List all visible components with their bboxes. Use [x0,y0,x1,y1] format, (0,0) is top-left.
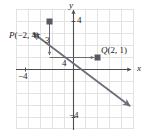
rise-label: 3 [45,36,50,45]
coordinate-plane-figure: P(−2, 4) Q(2, 1) 3 4 4 −4 −4 y x [0,0,154,137]
y-tick-label-neg4: −4 [69,111,79,120]
run-label: 4 [62,59,67,68]
point-marker-q [95,55,101,61]
point-label-q: Q(2, 1) [101,46,127,55]
y-tick-label-4: 4 [77,16,82,25]
point-label-p: P(−2, 4) [9,31,39,40]
x-axis-label: x [137,64,141,73]
y-axis-label: y [69,1,73,10]
rise-run-annotation [50,22,95,58]
point-marker-p [47,19,53,25]
x-tick-label-neg4: −4 [18,72,28,81]
